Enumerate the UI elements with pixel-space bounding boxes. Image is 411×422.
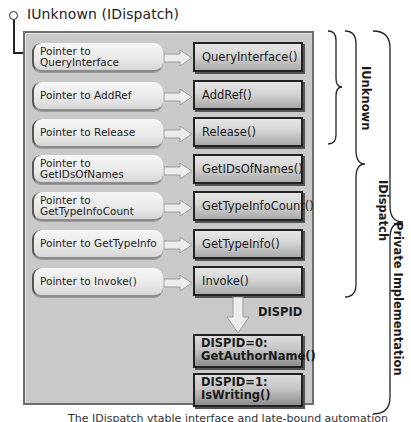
pointer-label: Pointer to QueryInterface (40, 46, 157, 68)
figure-caption: The IDispatch vtable interface and late-… (68, 412, 388, 422)
right-arrow-icon (164, 200, 192, 216)
vtable-pointer: Pointer to GetTypeInfo (32, 230, 163, 259)
pointer-label: Pointer to (40, 195, 91, 206)
vtable-pointer: Pointer to GetIDsOfNames (32, 155, 163, 184)
down-arrow-icon (227, 297, 249, 333)
function-label: AddRef() (202, 88, 252, 102)
function-label: GetTypeInfo() (202, 237, 280, 251)
dispatch-method-box: DISPID=0: GetAuthorName() (193, 334, 303, 368)
function-label: GetTypeInfoCount() (202, 199, 314, 213)
pointer-label: GetTypeInfoCount (40, 206, 134, 217)
method-name: GetAuthorName() (201, 350, 295, 363)
right-arrow-icon (164, 237, 192, 253)
function-label: QueryInterface() (202, 50, 297, 64)
pointer-label: Pointer to Invoke() (40, 276, 137, 287)
function-label: Release() (202, 125, 256, 139)
function-box: AddRef() (193, 80, 303, 110)
function-box: GetTypeInfo() (193, 229, 303, 259)
interface-title: IUnknown (IDispatch) (27, 6, 179, 22)
function-box: Release() (193, 117, 303, 147)
iunknown-brace-icon (327, 30, 343, 145)
dispatch-method-box: DISPID=1: IsWriting() (193, 373, 303, 407)
method-name: IsWriting() (201, 389, 295, 402)
interface-pointer-circle-icon (9, 11, 18, 20)
function-box: GetTypeInfoCount() (193, 191, 303, 221)
function-label: Invoke() (202, 274, 249, 288)
pointer-label: GetIDsOfNames (40, 169, 124, 180)
vtable-pointer: Pointer to QueryInterface (32, 43, 163, 72)
vtable-pointer: Pointer to AddRef (32, 82, 163, 111)
vtable-pointer: Pointer to Invoke() (32, 268, 163, 297)
pointer-label: Pointer to Release (40, 127, 135, 138)
private-implementation-label: Private Implementation (391, 222, 405, 376)
function-box: Invoke() (193, 266, 303, 296)
dispid-arrow-label: DISPID (258, 305, 302, 319)
pointer-label: Pointer to GetTypeInfo (40, 238, 157, 249)
right-arrow-icon (164, 126, 192, 142)
right-arrow-icon (164, 163, 192, 179)
idispatch-brace-icon (344, 30, 366, 298)
connector-line (13, 20, 15, 53)
vtable-pointer: Pointer to Release (32, 119, 163, 148)
right-arrow-icon (164, 50, 192, 66)
function-box: GetIDsOfNames() (193, 154, 303, 184)
vtable-pointer: Pointer to GetTypeInfoCount (32, 192, 163, 221)
pointer-label: Pointer to (40, 158, 91, 169)
function-box: QueryInterface() (193, 42, 303, 72)
function-label: GetIDsOfNames() (202, 162, 303, 176)
right-arrow-icon (164, 89, 192, 105)
pointer-label: Pointer to AddRef (40, 90, 131, 101)
right-arrow-icon (164, 275, 192, 291)
